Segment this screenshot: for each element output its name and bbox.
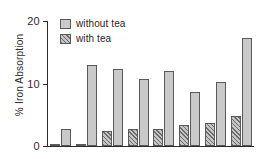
y-tick-mark-20 — [43, 21, 47, 22]
bar-group — [74, 21, 100, 146]
bar-group — [125, 21, 151, 146]
bar-without-tea — [87, 65, 97, 146]
y-tick-label-0: 0 — [16, 141, 40, 152]
bar-with-tea — [231, 116, 241, 146]
bar-group — [177, 21, 203, 146]
bar-group — [48, 21, 74, 146]
bar-group — [151, 21, 177, 146]
bar-without-tea — [113, 69, 123, 147]
bar-group — [100, 21, 126, 146]
bar-without-tea — [139, 79, 149, 147]
bar-without-tea — [216, 82, 226, 146]
plot-area — [48, 21, 254, 146]
y-tick-label-20: 20 — [16, 16, 40, 27]
y-axis-title: % Iron Absorption — [15, 20, 25, 130]
bar-with-tea — [50, 144, 60, 147]
bar-with-tea — [76, 144, 86, 146]
bar-group — [203, 21, 229, 146]
y-tick-mark-0 — [43, 146, 47, 147]
y-tick-label-10: 10 — [16, 79, 40, 90]
x-axis-line — [47, 146, 254, 147]
bar-with-tea — [205, 123, 215, 146]
bar-without-tea — [242, 38, 252, 146]
bar-with-tea — [128, 129, 138, 147]
bar-without-tea — [164, 71, 174, 146]
y-tick-mark-10 — [43, 84, 47, 85]
bar-with-tea — [102, 131, 112, 146]
iron-absorption-bar-chart: % Iron Absorption 20 10 0 without tea wi… — [0, 0, 264, 159]
bar-with-tea — [153, 129, 163, 147]
bar-group — [228, 21, 254, 146]
bar-without-tea — [61, 129, 71, 146]
bar-without-tea — [190, 92, 200, 146]
bar-with-tea — [179, 125, 189, 146]
